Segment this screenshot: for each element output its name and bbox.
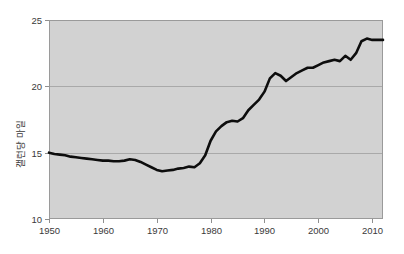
y-tick-label-20: 20 [31, 81, 42, 92]
x-tick-label-1950: 1950 [39, 225, 60, 236]
x-tick-label-2010: 2010 [362, 225, 383, 236]
chart-figure: 10152025 1950196019701980199020002010 갤런… [0, 0, 404, 254]
x-tick-label-2000: 2000 [308, 225, 329, 236]
y-axis-ticks-group: 10152025 [31, 15, 49, 225]
y-axis-title: 갤런당 마일 [15, 120, 26, 168]
y-tick-label-25: 25 [31, 15, 42, 26]
plot-area-background [49, 20, 383, 219]
y-tick-label-15: 15 [31, 148, 42, 159]
x-tick-label-1980: 1980 [201, 225, 222, 236]
x-tick-label-1970: 1970 [147, 225, 168, 236]
x-axis-ticks-group: 1950196019701980199020002010 [39, 219, 383, 236]
x-tick-label-1990: 1990 [254, 225, 275, 236]
y-tick-label-10: 10 [31, 214, 42, 225]
x-tick-label-1960: 1960 [93, 225, 114, 236]
caption-clipped [18, 249, 268, 254]
mpg-line-chart: 10152025 1950196019701980199020002010 갤런… [0, 0, 404, 254]
